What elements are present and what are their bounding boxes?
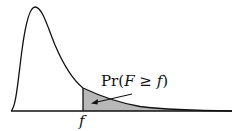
probability-label: Pr(F ≥ f) [101,72,168,90]
tail-area-shading [83,88,232,111]
f-distribution-diagram: Pr(F ≥ f) f [0,0,244,131]
critical-value-label: f [78,112,87,130]
density-curve [11,7,232,111]
